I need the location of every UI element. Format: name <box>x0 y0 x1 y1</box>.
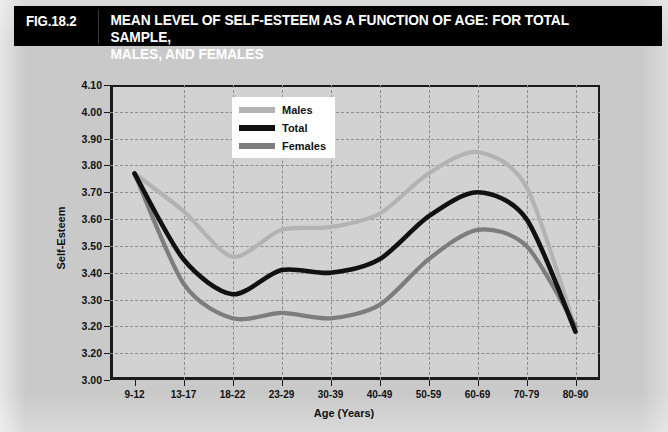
legend-label: Males <box>282 104 313 116</box>
y-axis-tick-label: 3.70 <box>82 186 102 198</box>
legend-item: Females <box>239 138 326 153</box>
legend-label: Females <box>282 140 326 152</box>
y-axis-tick-label: 3.60 <box>82 213 102 225</box>
chart-legend: MalesTotalFemales <box>232 97 335 158</box>
y-axis-tick-label: 3.40 <box>82 267 102 279</box>
series-lines <box>110 85 600 380</box>
figure-title-bar: FIG.18.2 MEAN LEVEL OF SELF-ESTEEM AS A … <box>14 6 662 46</box>
legend-swatch-males <box>239 107 275 113</box>
y-axis-tick-label: 4.00 <box>82 106 102 118</box>
y-axis-title: Self-Esteem <box>55 207 67 270</box>
x-axis-tick-mark <box>527 380 528 386</box>
y-axis-tick-label: 3.20 <box>82 320 102 332</box>
x-axis-tick-label: 23-29 <box>269 389 295 400</box>
x-axis-tick-mark <box>282 380 283 386</box>
x-axis-title: Age (Years) <box>0 407 668 419</box>
y-axis-tick-label: 3.90 <box>82 133 102 145</box>
legend-item: Males <box>239 102 326 117</box>
legend-label: Total <box>282 122 307 134</box>
x-axis-tick-label: 50-59 <box>416 389 442 400</box>
x-axis-tick-mark <box>135 380 136 386</box>
figure-number-label: FIG.18.2 <box>14 6 91 29</box>
y-axis-tick-label: 3.50 <box>82 240 102 252</box>
x-axis-tick-mark <box>576 380 577 386</box>
x-axis-tick-label: 80-90 <box>563 389 589 400</box>
y-axis-tick-label: 3.30 <box>82 294 102 306</box>
series-line-females <box>135 174 576 327</box>
y-axis-tick-label: 4.10 <box>82 79 102 91</box>
x-axis-tick-mark <box>429 380 430 386</box>
x-axis-tick-label: 30-39 <box>318 389 344 400</box>
x-axis-tick-mark <box>184 380 185 386</box>
y-axis-tick-label: 3.00 <box>82 374 102 386</box>
x-axis-tick-label: 13-17 <box>171 389 197 400</box>
x-axis-tick-mark <box>233 380 234 386</box>
legend-item: Total <box>239 120 326 135</box>
x-axis-tick-label: 60-69 <box>465 389 491 400</box>
x-axis-tick-mark <box>331 380 332 386</box>
x-axis-tick-label: 70-79 <box>514 389 540 400</box>
x-axis-tick-label: 9-12 <box>124 389 144 400</box>
y-axis-tick-label: 3.20 <box>82 347 102 359</box>
y-axis-tick-mark <box>104 380 110 381</box>
y-axis-tick-label: 3.80 <box>82 159 102 171</box>
legend-swatch-females <box>239 143 275 149</box>
legend-swatch-total <box>239 125 275 131</box>
figure-container: FIG.18.2 MEAN LEVEL OF SELF-ESTEEM AS A … <box>0 0 668 432</box>
x-axis-tick-mark <box>478 380 479 386</box>
x-axis-tick-mark <box>380 380 381 386</box>
x-axis-tick-label: 40-49 <box>367 389 393 400</box>
x-axis-tick-label: 18-22 <box>220 389 246 400</box>
series-line-total <box>135 174 576 332</box>
x-axis-title-text: Age (Years) <box>314 407 375 419</box>
chart-area: Self-Esteem 4.104.003.903.803.703.603.50… <box>0 50 668 432</box>
